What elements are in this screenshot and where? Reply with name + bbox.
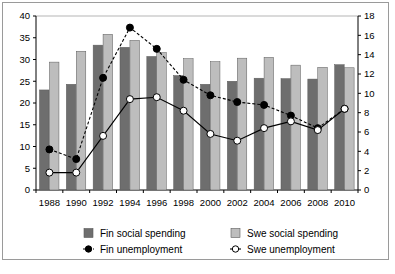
line-marker bbox=[100, 74, 107, 81]
bar bbox=[281, 79, 291, 190]
bar bbox=[174, 76, 184, 190]
legend-label: Fin social spending bbox=[100, 228, 186, 239]
legend-swatch bbox=[84, 229, 93, 238]
line-marker bbox=[207, 130, 214, 137]
line-marker bbox=[234, 99, 241, 106]
line-marker bbox=[153, 94, 160, 101]
line-marker bbox=[126, 24, 133, 31]
y-axis-left-tick-label: 40 bbox=[19, 10, 30, 21]
y-axis-right-tick-label: 14 bbox=[364, 49, 375, 60]
bar bbox=[291, 65, 301, 190]
line-marker bbox=[46, 169, 53, 176]
line-marker bbox=[261, 125, 268, 132]
bar bbox=[254, 78, 264, 190]
legend-label: Swe social spending bbox=[247, 228, 338, 239]
legend-item: Fin unemployment bbox=[83, 244, 182, 255]
legend-label: Fin unemployment bbox=[100, 244, 182, 255]
line-marker bbox=[73, 169, 80, 176]
x-axis-tick-label: 2010 bbox=[334, 197, 355, 208]
x-axis-tick-label: 1990 bbox=[66, 197, 87, 208]
y-axis-right-tick-label: 0 bbox=[364, 184, 369, 195]
y-axis-right-tick-label: 12 bbox=[364, 68, 375, 79]
bar bbox=[130, 40, 140, 190]
bar bbox=[345, 68, 355, 190]
legend-swatch bbox=[231, 229, 240, 238]
line-marker bbox=[180, 76, 187, 83]
bar bbox=[308, 79, 318, 190]
bar bbox=[157, 53, 167, 190]
x-axis-tick-label: 2006 bbox=[280, 197, 301, 208]
bar bbox=[120, 47, 130, 190]
x-axis-tick-label: 1992 bbox=[93, 197, 114, 208]
x-axis-tick-label: 2008 bbox=[307, 197, 328, 208]
y-axis-right-tick-label: 10 bbox=[364, 88, 375, 99]
y-axis-right-tick-label: 8 bbox=[364, 107, 369, 118]
bar bbox=[147, 56, 157, 190]
line-marker bbox=[180, 107, 187, 114]
x-axis-tick-label: 2004 bbox=[254, 197, 275, 208]
y-axis-right-tick-label: 16 bbox=[364, 30, 375, 41]
bar bbox=[210, 62, 220, 190]
legend-item: Swe unemployment bbox=[230, 244, 335, 255]
x-axis-tick-label: 1988 bbox=[39, 197, 60, 208]
line-marker bbox=[234, 137, 241, 144]
x-axis-tick-label: 1996 bbox=[146, 197, 167, 208]
x-axis-tick-label: 1994 bbox=[119, 197, 140, 208]
y-axis-right-tick-label: 4 bbox=[364, 146, 369, 157]
chart-screenshot: 0510152025303540024681012141618198819901… bbox=[0, 0, 395, 274]
bar bbox=[227, 81, 237, 190]
y-axis-left-tick-label: 5 bbox=[25, 163, 30, 174]
y-axis-right-tick-label: 2 bbox=[364, 165, 369, 176]
x-axis-tick-label: 1998 bbox=[173, 197, 194, 208]
legend-marker bbox=[85, 246, 91, 252]
y-axis-left-tick-label: 20 bbox=[19, 97, 30, 108]
y-axis-left-tick-label: 0 bbox=[25, 184, 30, 195]
line-marker bbox=[153, 45, 160, 52]
line-marker bbox=[287, 118, 294, 125]
line-marker bbox=[100, 132, 107, 139]
legend-glyph bbox=[83, 246, 94, 252]
legend-glyph bbox=[231, 229, 240, 238]
y-axis-left-tick-label: 25 bbox=[19, 76, 30, 87]
x-axis-tick-label: 2002 bbox=[227, 197, 248, 208]
bar bbox=[237, 58, 247, 190]
combo-chart: 0510152025303540024681012141618198819901… bbox=[0, 0, 395, 274]
legend-item: Swe social spending bbox=[231, 228, 338, 239]
y-axis-left-tick-label: 35 bbox=[19, 32, 30, 43]
legend-label: Swe unemployment bbox=[247, 244, 335, 255]
line-marker bbox=[261, 101, 268, 108]
chart-canvas: 0510152025303540024681012141618198819901… bbox=[0, 0, 395, 274]
bar bbox=[264, 57, 274, 190]
legend-glyph bbox=[84, 229, 93, 238]
bar bbox=[93, 45, 103, 190]
line-marker bbox=[207, 92, 214, 99]
line-marker bbox=[314, 127, 321, 134]
legend-item: Fin social spending bbox=[84, 228, 186, 239]
y-axis-left-tick-label: 10 bbox=[19, 141, 30, 152]
y-axis-left-tick-label: 30 bbox=[19, 54, 30, 65]
legend-marker bbox=[232, 246, 238, 252]
x-axis-tick-label: 2000 bbox=[200, 197, 221, 208]
y-axis-right-tick-label: 6 bbox=[364, 126, 369, 137]
line-marker bbox=[341, 105, 348, 112]
y-axis-right-tick-label: 18 bbox=[364, 10, 375, 21]
line-marker bbox=[73, 156, 80, 163]
bar bbox=[335, 65, 345, 190]
line-marker bbox=[46, 146, 53, 153]
line-marker bbox=[126, 96, 133, 103]
legend-glyph bbox=[230, 246, 241, 252]
y-axis-left-tick-label: 15 bbox=[19, 119, 30, 130]
bar bbox=[103, 34, 113, 190]
